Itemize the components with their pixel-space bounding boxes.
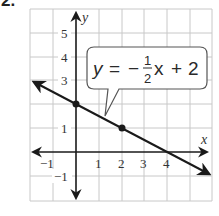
y-tick-labels: 5 4 3 1 −1 bbox=[52, 26, 72, 184]
eq-frac-den: 2 bbox=[144, 71, 151, 86]
eq-lhs: y bbox=[91, 58, 104, 79]
x-tick-4: 4 bbox=[163, 156, 170, 171]
equation-callout: y = − 1 2 x + 2 bbox=[87, 47, 207, 116]
x-tick-3: 3 bbox=[140, 156, 147, 171]
eq-frac-num: 1 bbox=[144, 53, 151, 68]
eq-minus: − bbox=[128, 58, 139, 79]
y-tick-5: 5 bbox=[61, 26, 68, 41]
eq-const: 2 bbox=[188, 58, 199, 79]
x-tick-2: 2 bbox=[118, 156, 125, 171]
x-tick-neg1: −1 bbox=[40, 156, 54, 171]
eq-equals: = bbox=[109, 58, 120, 79]
coordinate-plane: x y −1 1 2 3 4 5 4 3 1 −1 y = − 1 2 x + … bbox=[0, 0, 219, 216]
y-tick-4: 4 bbox=[61, 50, 68, 65]
point-2-1 bbox=[119, 125, 126, 132]
y-tick-neg1: −1 bbox=[54, 169, 68, 184]
eq-var: x bbox=[154, 58, 164, 79]
y-tick-1: 1 bbox=[61, 121, 68, 136]
eq-plus: + bbox=[171, 58, 182, 79]
x-axis-label: x bbox=[200, 132, 208, 147]
y-axis-label: y bbox=[80, 10, 89, 25]
y-tick-3: 3 bbox=[61, 73, 68, 88]
point-0-2 bbox=[73, 101, 80, 108]
x-tick-1: 1 bbox=[95, 156, 102, 171]
